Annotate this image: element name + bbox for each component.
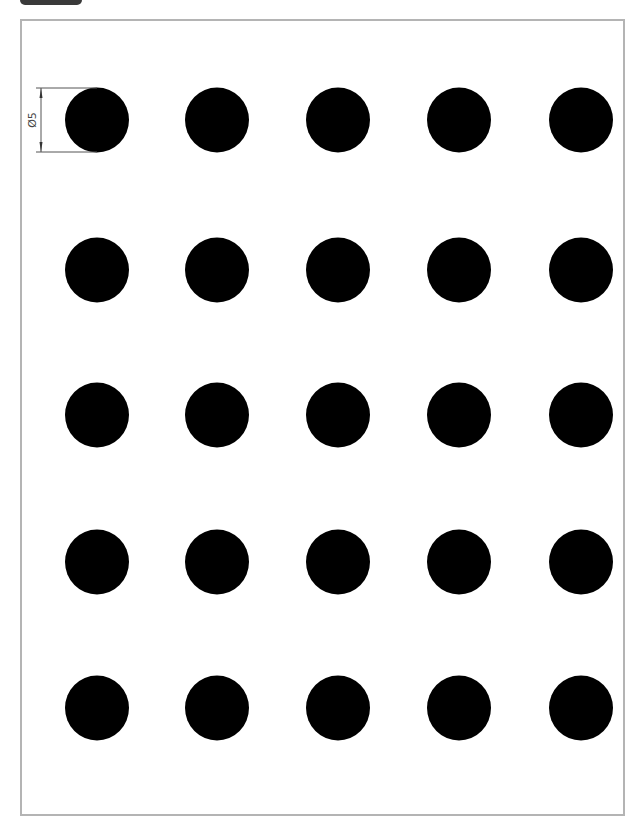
circle-r5-c3: [306, 676, 370, 741]
arrowhead-top-icon: [40, 88, 43, 98]
circle-r4-c1: [65, 530, 129, 595]
arrowhead-bottom-icon: [40, 142, 43, 152]
circle-r2-c4: [427, 238, 491, 303]
circle-r1-c5: [549, 88, 613, 153]
circle-r3-c2: [185, 383, 249, 448]
circle-r3-c5: [549, 383, 613, 448]
circle-r4-c2: [185, 530, 249, 595]
circle-grid: [65, 88, 613, 741]
circle-r5-c4: [427, 676, 491, 741]
circle-r1-c3: [306, 88, 370, 153]
circle-r3-c3: [306, 383, 370, 448]
circle-grid-drawing: Ø5: [0, 0, 644, 834]
circle-r1-c4: [427, 88, 491, 153]
circle-r2-c3: [306, 238, 370, 303]
circle-r1-c1: [65, 88, 129, 153]
circle-r5-c2: [185, 676, 249, 741]
circle-r2-c2: [185, 238, 249, 303]
circle-r4-c4: [427, 530, 491, 595]
circle-r4-c5: [549, 530, 613, 595]
circle-r4-c3: [306, 530, 370, 595]
circle-r1-c2: [185, 88, 249, 153]
circle-r5-c5: [549, 676, 613, 741]
circle-r2-c1: [65, 238, 129, 303]
dimension-label: Ø5: [26, 112, 39, 128]
circle-r2-c5: [549, 238, 613, 303]
circle-r3-c4: [427, 383, 491, 448]
circle-r5-c1: [65, 676, 129, 741]
circle-r3-c1: [65, 383, 129, 448]
